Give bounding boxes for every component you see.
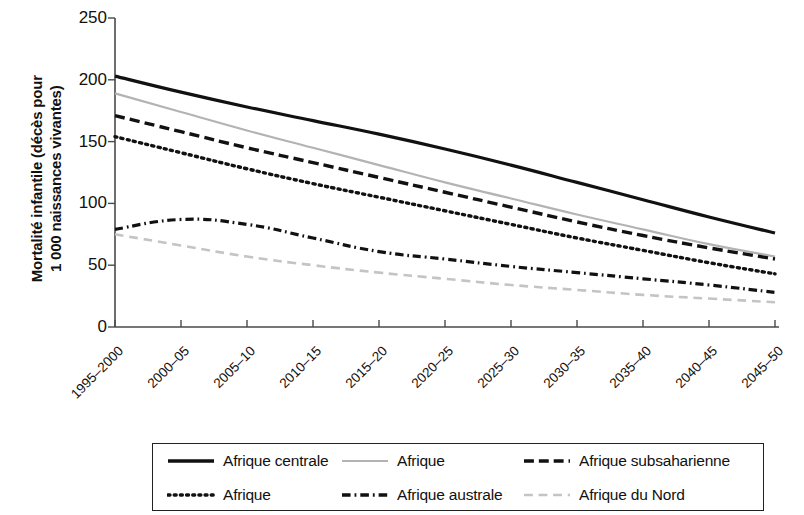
legend-swatch-dotted: [167, 488, 215, 502]
legend-swatch-dashed-grey: [523, 488, 571, 502]
series-line: [115, 234, 775, 302]
series-lines: [115, 76, 775, 302]
legend-swatch-solid: [167, 454, 215, 468]
legend-swatch-dash-dot: [341, 488, 389, 502]
legend-item[interactable]: Afrique centrale: [167, 452, 328, 470]
legend-item[interactable]: Afrique: [167, 486, 271, 504]
infant-mortality-line-chart: Mortalité infantile (décès pour 1 000 na…: [0, 0, 804, 515]
legend-row: Afrique centraleAfriqueAfrique subsahari…: [153, 444, 763, 478]
legend: Afrique centraleAfriqueAfrique subsahari…: [152, 443, 764, 511]
legend-item[interactable]: Afrique: [341, 452, 445, 470]
legend-item[interactable]: Afrique du Nord: [523, 486, 685, 504]
series-line: [115, 137, 775, 274]
legend-item-label: Afrique: [223, 486, 271, 504]
series-line: [115, 93, 775, 256]
legend-item[interactable]: Afrique subsaharienne: [523, 452, 730, 470]
legend-item[interactable]: Afrique australe: [341, 486, 502, 504]
legend-swatch-solid-grey: [341, 454, 389, 468]
legend-row: AfriqueAfrique australeAfrique du Nord: [153, 478, 763, 512]
legend-item-label: Afrique australe: [397, 486, 502, 504]
legend-item-label: Afrique subsaharienne: [579, 452, 730, 470]
legend-swatch-dashed: [523, 454, 571, 468]
legend-item-label: Afrique: [397, 452, 445, 470]
legend-item-label: Afrique centrale: [223, 452, 328, 470]
legend-item-label: Afrique du Nord: [579, 486, 685, 504]
